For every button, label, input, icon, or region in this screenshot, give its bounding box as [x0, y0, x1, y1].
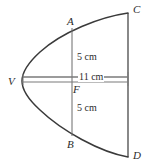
point-label-f: F [73, 84, 80, 95]
point-label-c: C [133, 4, 140, 15]
dimension-label-focus-to-b: 5 cm [76, 103, 98, 113]
dimension-label-vertex-to-chord: 11 cm [78, 72, 104, 82]
parabola-figure: A B C D V F 5 cm 11 cm 5 cm [0, 0, 149, 168]
point-label-d: D [133, 150, 141, 161]
point-label-b: B [67, 139, 74, 150]
point-label-v: V [8, 76, 15, 87]
point-label-a: A [67, 16, 74, 27]
dimension-label-focus-to-a: 5 cm [76, 52, 98, 62]
